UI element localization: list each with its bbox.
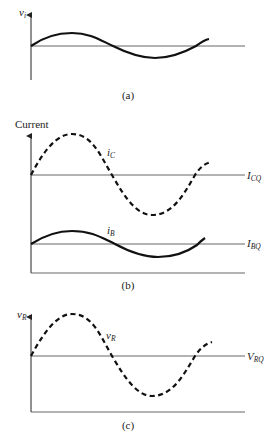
axis-label-a: vi	[19, 6, 26, 20]
axis-label-c: vR	[17, 308, 27, 322]
vr-waveform	[31, 314, 212, 396]
vr-label: vR	[106, 329, 116, 343]
ic-label: iC	[107, 146, 116, 160]
panel-b: Current iC iB ICQ IBQ (b)	[15, 118, 262, 292]
icq-label: ICQ	[246, 169, 262, 183]
ib-label: iB	[107, 224, 115, 238]
vrq-label: VRQ	[247, 350, 264, 364]
caption-c: (c)	[122, 419, 135, 432]
waveform-diagram: vi (a) Current iC iB ICQ IBQ (b) vR vR V…	[0, 0, 276, 444]
axis-label-b: Current	[15, 118, 49, 130]
panel-c: vR vR VRQ (c)	[17, 308, 264, 432]
caption-a: (a)	[122, 89, 135, 102]
panel-a: vi (a)	[19, 6, 245, 102]
caption-b: (b)	[122, 279, 135, 292]
vi-waveform	[31, 33, 209, 58]
ic-waveform	[31, 134, 212, 215]
ibq-label: IBQ	[246, 237, 261, 251]
